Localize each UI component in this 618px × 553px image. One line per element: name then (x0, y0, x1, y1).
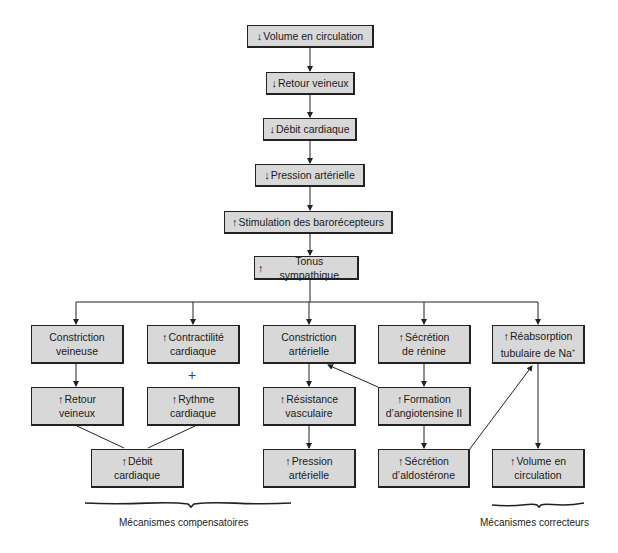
box-retour-veineux-increase: ↑Retour veineux (31, 387, 124, 426)
arrow-up-icon: ↑ (258, 261, 264, 275)
box-volume-circulation-increase: ↑Volume en circulation (492, 449, 585, 488)
box-secretion-renine: ↑Sécrétion de rénine (378, 325, 471, 364)
plus-sign: + (188, 367, 196, 383)
box-retour-veineux-decrease: ↓ Retour veineux (266, 72, 355, 95)
box-secretion-aldosterone: ↑Sécrétion d’aldostérone (378, 449, 470, 488)
box-formation-angiotensine: ↑Formation d’angiotensine II (378, 387, 471, 426)
arrow-down-icon: ↓ (269, 122, 275, 136)
box-rythme-cardiaque: ↑Rythme cardiaque (147, 387, 240, 426)
box-constriction-veineuse: Constriction veineuse (31, 325, 124, 364)
arrow-up-icon: ↑ (398, 454, 404, 468)
box-volume-circulation-decrease: ↓ Volume en circulation (247, 25, 374, 48)
flowchart: ↓ Volume en circulation ↓ Retour veineux… (0, 0, 618, 553)
arrow-up-icon: ↑ (510, 454, 516, 468)
arrow-up-icon: ↑ (504, 329, 510, 343)
box-tonus-sympathique: ↑ Tonus sympathique (254, 256, 359, 280)
arrow-up-icon: ↑ (232, 215, 238, 229)
box-debit-cardiaque-increase: ↑Débit cardiaque (91, 449, 184, 488)
box-pression-arterielle-increase: ↑Pression artérielle (263, 449, 356, 488)
arrow-down-icon: ↓ (271, 76, 277, 90)
box-contractilite-cardiaque: ↑Contractilité cardiaque (147, 325, 240, 364)
box-stimulation-barorecepteurs: ↑ Stimulation des barorécepteurs (224, 211, 393, 234)
box-resistance-vasculaire: ↑Résistance vasculaire (263, 387, 356, 426)
arrow-up-icon: ↑ (285, 454, 291, 468)
arrow-down-icon: ↓ (264, 168, 270, 182)
arrow-up-icon: ↑ (280, 392, 286, 406)
arrow-up-icon: ↑ (399, 330, 405, 344)
arrow-up-icon: ↑ (58, 392, 64, 406)
arrow-up-icon: ↑ (397, 392, 403, 406)
label-mecanismes-compensatoires: Mécanismes compensatoires (119, 517, 249, 528)
arrow-up-icon: ↑ (172, 392, 178, 406)
arrow-up-icon: ↑ (162, 330, 168, 344)
label-mecanismes-correcteurs: Mécanismes correcteurs (480, 517, 589, 528)
box-constriction-arterielle: Constriction artérielle (263, 325, 356, 364)
box-reabsorption-na: ↑Réabsorption tubulaire de Na+ (492, 325, 585, 364)
arrow-down-icon: ↓ (257, 29, 263, 43)
box-debit-cardiaque-decrease: ↓ Débit cardiaque (263, 118, 357, 141)
box-pression-arterielle-decrease: ↓ Pression artérielle (255, 164, 365, 187)
arrow-up-icon: ↑ (121, 454, 127, 468)
